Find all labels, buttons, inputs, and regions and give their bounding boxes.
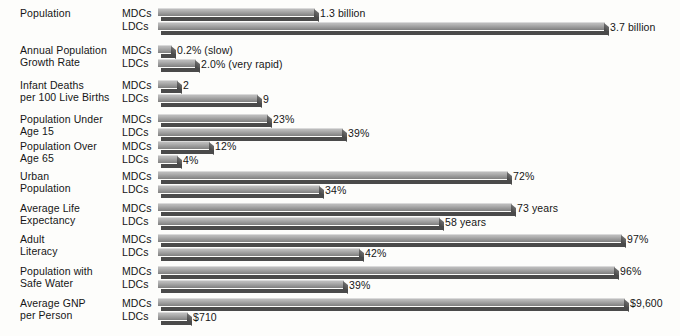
group-label-ldc: LDCs	[122, 127, 149, 139]
group-label-mdc: MDCs	[122, 114, 152, 126]
bar-mdc	[158, 80, 178, 88]
category-label-line: Growth Rate	[20, 57, 120, 69]
group-label-ldc: LDCs	[122, 93, 149, 105]
bar-value-label-ldc: 39%	[349, 280, 370, 291]
bar-value-label-ldc: 42%	[365, 248, 386, 259]
bar-ldc	[158, 22, 605, 30]
group-label-mdc: MDCs	[122, 80, 152, 92]
group-label-mdc: MDCs	[122, 234, 152, 246]
category-label-line: Age 65	[20, 153, 120, 165]
bar-ldc	[158, 248, 360, 256]
group-label-ldc: LDCs	[122, 247, 149, 259]
category-label-line: Infant Deaths	[20, 80, 120, 92]
bar-value-label-mdc: 0.2% (slow)	[177, 45, 233, 56]
row-category-label: UrbanPopulation	[20, 171, 120, 194]
group-label-ldc: LDCs	[122, 154, 149, 166]
bar-ldc	[158, 155, 178, 163]
bar-value-label-ldc: $710	[193, 312, 217, 323]
bar-mdc	[158, 234, 622, 242]
bar-mdc	[158, 114, 268, 122]
bar-ldc	[158, 128, 343, 136]
bar-value-label-mdc: $9,600	[630, 298, 663, 309]
row-category-label: Annual PopulationGrowth Rate	[20, 45, 120, 68]
bar-value-label-mdc: 1.3 billion	[320, 8, 365, 19]
bar-value-label-ldc: 4%	[183, 155, 198, 166]
bar-mdc	[158, 266, 615, 274]
group-label-ldc: LDCs	[122, 279, 149, 291]
bar-ldc	[158, 185, 320, 193]
bar-value-label-ldc: 3.7 billion	[610, 22, 655, 33]
bar-mdc	[158, 8, 315, 16]
bar-mdc	[158, 45, 172, 53]
category-label-line: Safe Water	[20, 278, 120, 290]
category-label-line: per Person	[20, 310, 120, 322]
row-category-label: AdultLiteracy	[20, 234, 120, 257]
category-label-line: Urban	[20, 171, 120, 183]
row-category-label: Population	[20, 8, 120, 20]
category-label-line: Adult	[20, 234, 120, 246]
group-label-mdc: MDCs	[122, 141, 152, 153]
row-category-label: Population UnderAge 15	[20, 114, 120, 137]
category-label-line: Population Under	[20, 114, 120, 126]
category-label-line: Expectancy	[20, 215, 120, 227]
bar-ldc	[158, 280, 344, 288]
group-label-ldc: LDCs	[122, 21, 149, 33]
group-label-mdc: MDCs	[122, 266, 152, 278]
bar-ldc	[158, 312, 188, 320]
group-label-mdc: MDCs	[122, 298, 152, 310]
bar-value-label-ldc: 34%	[325, 185, 346, 196]
bar-value-label-ldc: 2.0% (very rapid)	[201, 59, 283, 70]
group-label-ldc: LDCs	[122, 216, 149, 228]
bar-value-label-ldc: 58 years	[445, 217, 486, 228]
row-category-label: Population OverAge 65	[20, 141, 120, 164]
bar-mdc	[158, 298, 625, 306]
bar-value-label-mdc: 72%	[513, 171, 534, 182]
bar-value-label-ldc: 9	[263, 94, 269, 105]
row-category-label: Population withSafe Water	[20, 266, 120, 289]
group-label-mdc: MDCs	[122, 8, 152, 20]
bar-ldc	[158, 59, 196, 67]
bar-mdc	[158, 203, 512, 211]
category-label-line: Age 15	[20, 126, 120, 138]
bar-value-label-mdc: 96%	[620, 266, 641, 277]
group-label-mdc: MDCs	[122, 171, 152, 183]
bar-value-label-ldc: 39%	[348, 128, 369, 139]
group-label-ldc: LDCs	[122, 311, 149, 323]
group-label-mdc: MDCs	[122, 203, 152, 215]
bar-ldc	[158, 94, 258, 102]
row-category-label: Average LifeExpectancy	[20, 203, 120, 226]
category-label-line: Annual Population	[20, 45, 120, 57]
comparison-bar-chart: PopulationMDCs1.3 billionLDCs3.7 billion…	[0, 0, 680, 336]
bar-mdc	[158, 141, 210, 149]
group-label-ldc: LDCs	[122, 184, 149, 196]
category-label-line: Average Life	[20, 203, 120, 215]
row-category-label: Average GNPper Person	[20, 298, 120, 321]
category-label-line: Literacy	[20, 246, 120, 258]
bar-ldc	[158, 217, 440, 225]
bar-value-label-mdc: 2	[183, 80, 189, 91]
row-category-label: Infant Deathsper 100 Live Births	[20, 80, 120, 103]
bar-value-label-mdc: 12%	[215, 141, 236, 152]
category-label-line: Population	[20, 8, 120, 20]
category-label-line: Population with	[20, 266, 120, 278]
bar-value-label-mdc: 23%	[273, 114, 294, 125]
group-label-ldc: LDCs	[122, 58, 149, 70]
category-label-line: per 100 Live Births	[20, 92, 120, 104]
bar-mdc	[158, 171, 508, 179]
category-label-line: Population Over	[20, 141, 120, 153]
bar-value-label-mdc: 73 years	[517, 203, 558, 214]
group-label-mdc: MDCs	[122, 45, 152, 57]
bar-value-label-mdc: 97%	[627, 234, 648, 245]
category-label-line: Average GNP	[20, 298, 120, 310]
category-label-line: Population	[20, 183, 120, 195]
